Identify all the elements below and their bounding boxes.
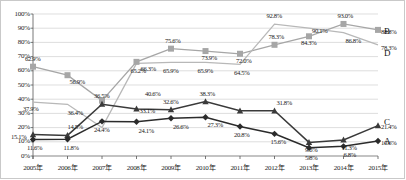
x-tick-label: 2014年 (327, 162, 361, 172)
x-tick-label: 2006年 (51, 162, 85, 172)
series-label-b: B (384, 26, 390, 36)
data-point-label: 73.9% (202, 54, 218, 61)
y-tick-label: 60% (0, 66, 30, 74)
data-point-label: 37.9% (23, 105, 39, 112)
x-tick-label: 2015年 (361, 162, 395, 172)
data-point-label: 5.8% (305, 154, 318, 161)
x-tick-label: 2009年 (154, 162, 188, 172)
data-point-label: 11.3% (342, 144, 357, 151)
data-point-label: 9.6% (305, 146, 318, 153)
data-point-label: 27.3% (208, 121, 224, 128)
data-point-label: 65.9% (198, 67, 214, 74)
data-point-label: 15.1% (11, 133, 27, 140)
y-tick-label: 20% (0, 123, 30, 131)
data-point-label: 92.8% (267, 12, 283, 19)
data-point-label: 75.6% (165, 37, 181, 44)
data-point-label: 36.4% (68, 109, 84, 116)
x-tick-label: 2013年 (292, 162, 326, 172)
data-point-label: 36.5% (94, 92, 110, 99)
data-point-label: 84.3% (301, 39, 317, 46)
series-label-c: C (384, 117, 390, 127)
data-point-label: 72.0% (236, 57, 252, 64)
data-point-label: 65.9% (163, 67, 179, 74)
data-point-label: 24.1% (139, 127, 155, 134)
series-label-a: A (384, 136, 391, 146)
data-point-label: 33.1% (140, 107, 156, 114)
y-tick-label: 80% (0, 38, 30, 46)
x-tick-label: 2011年 (223, 162, 257, 172)
data-point-label: 65.2% (131, 67, 147, 74)
data-point-label: 26.6% (173, 123, 189, 130)
x-tick-label: 2010年 (189, 162, 223, 172)
data-point-label: 62.9% (25, 55, 41, 62)
x-tick-label: 2007年 (85, 162, 119, 172)
data-point-label: 24.4% (94, 126, 110, 133)
data-point-label: 20.8% (234, 131, 250, 138)
data-point-label: 11.6% (27, 144, 42, 151)
data-point-label: 6.8% (344, 151, 357, 158)
data-point-label: 31.8% (277, 99, 293, 106)
data-point-label: 32.6% (163, 98, 179, 105)
y-tick-label: 100% (0, 10, 30, 18)
data-point-label: 90.1% (312, 27, 328, 34)
y-tick-label: 40% (0, 95, 30, 103)
data-point-label: 11.8% (64, 144, 79, 151)
data-point-label: 93.0% (338, 12, 354, 19)
y-tick-label: 90% (0, 24, 30, 32)
x-tick-label: 2005年 (16, 162, 50, 172)
data-point-label: 56.9% (70, 78, 86, 85)
chart-container: 0%10%20%30%40%50%60%70%80%90%100% 2005年2… (0, 0, 406, 180)
x-tick-label: 2012年 (258, 162, 292, 172)
data-point-label: 64.5% (234, 69, 250, 76)
y-tick-label: 0% (0, 152, 30, 160)
y-tick-label: 50% (0, 81, 30, 89)
data-point-label: 78.3% (269, 33, 285, 40)
data-point-label: 38.3% (200, 90, 216, 97)
data-point-label: 14.5% (68, 123, 84, 130)
x-tick-label: 2008年 (120, 162, 154, 172)
data-point-label: 86.8% (346, 37, 362, 44)
series-label-d: D (384, 48, 391, 58)
data-point-label: 15.6% (271, 138, 287, 145)
data-point-label: 40.6% (145, 90, 161, 97)
